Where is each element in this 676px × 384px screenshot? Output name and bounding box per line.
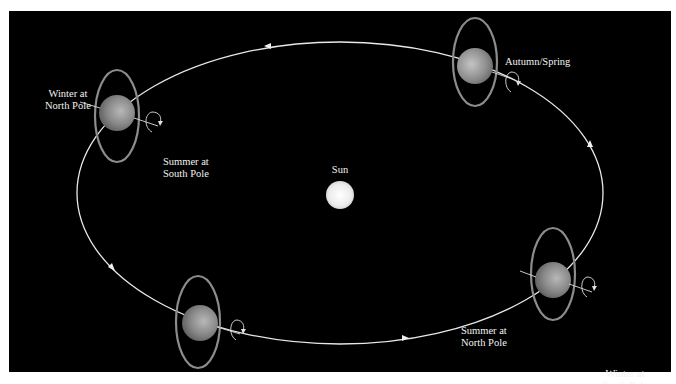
label-line: South Pole xyxy=(163,168,209,180)
label-winter-north-pole: Winter at North Pole xyxy=(45,88,91,112)
earth xyxy=(182,305,218,341)
earth xyxy=(535,262,571,298)
label-line: South Pole xyxy=(602,380,648,384)
orbit-diagram xyxy=(0,0,676,384)
label-summer-north-pole: Summer at North Pole xyxy=(461,325,507,349)
sun-label: Sun xyxy=(326,164,354,176)
label-line: North Pole xyxy=(45,100,91,112)
earth xyxy=(99,95,135,131)
label-summer-south-pole: Summer at South Pole xyxy=(163,156,209,180)
label-winter-south-pole: Winter at South Pole xyxy=(602,368,648,384)
label-line: Summer at xyxy=(461,325,507,337)
earth xyxy=(457,48,493,84)
orbit-direction-arrow-icon xyxy=(108,263,115,271)
label-line: Winter at xyxy=(45,88,91,100)
orbit-direction-arrow-icon xyxy=(402,335,409,341)
axis-line xyxy=(520,271,536,277)
earth-position-bottom-left xyxy=(176,276,246,368)
label-line: Winter at xyxy=(602,368,648,380)
rotation-arrow-head xyxy=(158,121,163,126)
label-line: Summer at xyxy=(163,156,209,168)
earth-position-top-left xyxy=(80,70,163,162)
rotation-arrow-head xyxy=(592,286,597,291)
earth-position-bottom-right xyxy=(520,228,597,320)
sun xyxy=(326,181,354,209)
label-autumn-spring: Autumn/Spring xyxy=(505,56,570,68)
label-line: North Pole xyxy=(461,337,507,349)
